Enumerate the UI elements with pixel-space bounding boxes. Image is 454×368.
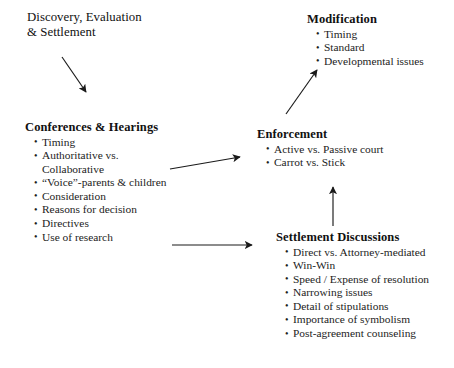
list-item: Timing bbox=[34, 136, 215, 150]
node-settlement: Settlement Discussions Direct vs. Attorn… bbox=[276, 230, 454, 341]
node-modification-bullets: Timing Standard Developmental issues bbox=[307, 28, 452, 69]
node-modification: Modification Timing Standard Development… bbox=[307, 12, 452, 68]
list-item: Developmental issues bbox=[316, 55, 452, 69]
list-item: Post-agreement counseling bbox=[285, 327, 454, 341]
node-modification-title: Modification bbox=[307, 12, 452, 27]
list-item: Active vs. Passive court bbox=[266, 143, 437, 157]
node-settlement-title: Settlement Discussions bbox=[276, 230, 454, 245]
list-item: Speed / Expense of resolution bbox=[285, 273, 454, 287]
list-item: Timing bbox=[316, 28, 452, 42]
list-item: Detail of stipulations bbox=[285, 300, 454, 314]
list-item: Consideration bbox=[34, 190, 215, 204]
node-enforcement-bullets: Active vs. Passive court Carrot vs. Stic… bbox=[257, 143, 437, 170]
list-item: Narrowing issues bbox=[285, 286, 454, 300]
list-item: Directives bbox=[34, 217, 215, 231]
list-item: “Voice”-parents & children bbox=[34, 176, 215, 190]
list-item: Win-Win bbox=[285, 259, 454, 273]
arrow-enforcement-to-modification bbox=[286, 70, 317, 114]
list-item: Carrot vs. Stick bbox=[266, 156, 437, 170]
node-conferences-bullets: Timing Authoritative vs. Collaborative “… bbox=[25, 136, 215, 245]
node-conferences-title: Conferences & Hearings bbox=[25, 120, 215, 135]
node-enforcement-title: Enforcement bbox=[257, 127, 437, 142]
node-discovery-title: Discovery, Evaluation & Settlement bbox=[27, 10, 207, 39]
node-enforcement: Enforcement Active vs. Passive court Car… bbox=[257, 127, 437, 170]
node-settlement-bullets: Direct vs. Attorney-mediated Win-Win Spe… bbox=[276, 246, 454, 341]
arrow-discovery-to-conferences bbox=[62, 57, 86, 92]
list-item: Importance of symbolism bbox=[285, 313, 454, 327]
process-flow-diagram: Discovery, Evaluation & Settlement Confe… bbox=[0, 0, 454, 368]
list-item: Direct vs. Attorney-mediated bbox=[285, 246, 454, 260]
node-conferences: Conferences & Hearings Timing Authoritat… bbox=[25, 120, 215, 244]
list-item: Use of research bbox=[34, 231, 215, 245]
node-discovery: Discovery, Evaluation & Settlement bbox=[27, 10, 207, 39]
list-item: Standard bbox=[316, 41, 452, 55]
list-item: Reasons for decision bbox=[34, 203, 215, 217]
list-item: Authoritative vs. Collaborative bbox=[34, 149, 215, 176]
